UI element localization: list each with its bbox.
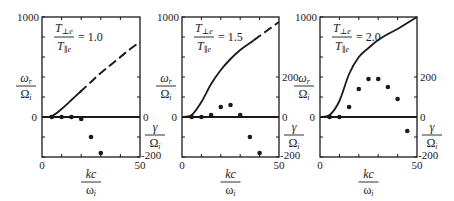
gamma-point xyxy=(189,115,194,120)
chart-panel-3: 100000502000-200ωrΩiγΩikcωiT⊥eT∥e= 2.0 xyxy=(294,11,442,198)
gamma-point xyxy=(59,115,64,120)
svg-text:kc: kc xyxy=(86,167,97,181)
svg-text:T⊥e: T⊥e xyxy=(55,21,73,36)
svg-text:γ: γ xyxy=(430,120,435,134)
svg-text:Ωi: Ωi xyxy=(149,136,160,151)
gamma-point xyxy=(199,115,204,120)
chart-panel-1: 100000500-200ωrΩiγΩikcωiT⊥eT∥e= 1.0 xyxy=(16,11,165,198)
svg-text:0: 0 xyxy=(32,111,38,123)
svg-text:1000: 1000 xyxy=(157,11,180,23)
svg-text:1000: 1000 xyxy=(17,11,40,23)
temperature-ratio-label: T⊥eT∥e= 1.0 xyxy=(54,21,103,54)
svg-text:0: 0 xyxy=(317,159,323,171)
gamma-point xyxy=(219,105,224,110)
omega-r-curve-dashed xyxy=(80,42,140,92)
svg-text:0: 0 xyxy=(310,111,316,123)
svg-text:1000: 1000 xyxy=(295,11,318,23)
y-left-label: ωrΩi xyxy=(156,71,176,102)
gamma-point xyxy=(327,115,332,120)
gamma-point xyxy=(89,135,94,140)
svg-text:Ωi: Ωi xyxy=(288,136,299,151)
svg-text:T∥e: T∥e xyxy=(335,39,349,54)
svg-text:γ: γ xyxy=(153,120,158,134)
temperature-ratio-label: T⊥eT∥e= 2.0 xyxy=(332,21,381,54)
svg-text:0: 0 xyxy=(420,111,426,123)
gamma-point xyxy=(357,87,362,92)
svg-text:γ: γ xyxy=(292,120,297,134)
gamma-point xyxy=(69,115,74,120)
gamma-point xyxy=(376,77,381,82)
svg-text:0: 0 xyxy=(179,159,185,171)
gamma-point xyxy=(386,85,391,90)
svg-text:ωr: ωr xyxy=(298,71,310,86)
gamma-point xyxy=(347,105,352,110)
svg-text:T∥e: T∥e xyxy=(57,39,71,54)
temperature-ratio-label: T⊥eT∥e= 1.5 xyxy=(194,21,243,54)
omega-r-curve-dashed xyxy=(254,22,279,40)
svg-text:Ωi: Ωi xyxy=(160,87,171,102)
svg-text:= 1.5: = 1.5 xyxy=(218,30,243,44)
gamma-point xyxy=(50,115,55,120)
svg-text:Ωi: Ωi xyxy=(20,87,31,102)
x-label: kcωi xyxy=(81,167,101,198)
svg-text:ωr: ωr xyxy=(160,71,172,86)
svg-text:0: 0 xyxy=(39,159,45,171)
chart-panel-2: 100000502000-200ωrΩiγΩikcωiT⊥eT∥e= 1.5 xyxy=(156,11,304,198)
svg-text:kc: kc xyxy=(225,167,236,181)
y-right-label: γΩi xyxy=(422,120,442,151)
svg-text:200: 200 xyxy=(282,71,299,83)
omega-r-curve-solid xyxy=(182,40,254,117)
gamma-point xyxy=(209,113,214,118)
omega-r-curve-solid xyxy=(42,91,81,117)
gamma-point xyxy=(395,97,400,102)
svg-text:T∥e: T∥e xyxy=(197,39,211,54)
gamma-point xyxy=(79,117,84,122)
svg-text:ωi: ωi xyxy=(363,183,373,198)
gamma-point xyxy=(99,151,104,156)
gamma-point xyxy=(228,103,233,108)
svg-text:ωr: ωr xyxy=(20,71,32,86)
gamma-point xyxy=(337,115,342,120)
svg-text:= 2.0: = 2.0 xyxy=(356,30,381,44)
x-label: kcωi xyxy=(359,167,379,198)
gamma-point xyxy=(238,113,243,118)
svg-text:Ωi: Ωi xyxy=(426,136,437,151)
svg-text:ωi: ωi xyxy=(86,183,96,198)
svg-text:= 1.0: = 1.0 xyxy=(78,30,103,44)
svg-text:200: 200 xyxy=(420,71,437,83)
x-label: kcωi xyxy=(221,167,241,198)
y-right-label: γΩi xyxy=(145,120,165,151)
gamma-point xyxy=(405,129,410,134)
gamma-point xyxy=(257,151,262,156)
svg-text:0: 0 xyxy=(143,111,149,123)
svg-text:0: 0 xyxy=(282,111,288,123)
gamma-point xyxy=(366,77,371,82)
figure-canvas: 100000500-200ωrΩiγΩikcωiT⊥eT∥e= 1.010000… xyxy=(0,0,454,201)
y-right-label: γΩi xyxy=(284,120,304,151)
svg-text:T⊥e: T⊥e xyxy=(333,21,351,36)
svg-text:T⊥e: T⊥e xyxy=(195,21,213,36)
svg-text:kc: kc xyxy=(363,167,374,181)
svg-text:Ωi: Ωi xyxy=(298,87,309,102)
gamma-point xyxy=(248,135,253,140)
svg-text:0: 0 xyxy=(172,111,178,123)
y-left-label: ωrΩi xyxy=(16,71,36,102)
svg-text:ωi: ωi xyxy=(225,183,235,198)
